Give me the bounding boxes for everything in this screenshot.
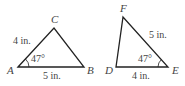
angle-a-label: 47° [31,53,45,64]
triangle-def: F 5 in. 47° D 4 in. E [104,2,179,81]
angle-a-arc [26,59,30,67]
side-ef-label: 5 in. [149,29,167,40]
vertex-c-label: C [51,13,59,25]
vertex-e-label: E [171,64,179,76]
side-ac-label: 4 in. [13,35,31,46]
side-de-label: 4 in. [132,70,150,81]
side-ab-label: 5 in. [43,70,61,81]
triangle-abc-shape [18,28,84,67]
angle-e-label: 47° [138,53,152,64]
vertex-d-label: D [104,64,113,76]
vertex-f-label: F [119,2,127,14]
angle-e-arc [158,60,161,67]
vertex-b-label: B [87,64,94,76]
diagram-canvas: C 4 in. A 47° 5 in. B F 5 in. 47° D 4 in… [0,0,185,86]
vertex-a-label: A [6,64,14,76]
triangle-abc: C 4 in. A 47° 5 in. B [6,13,94,81]
